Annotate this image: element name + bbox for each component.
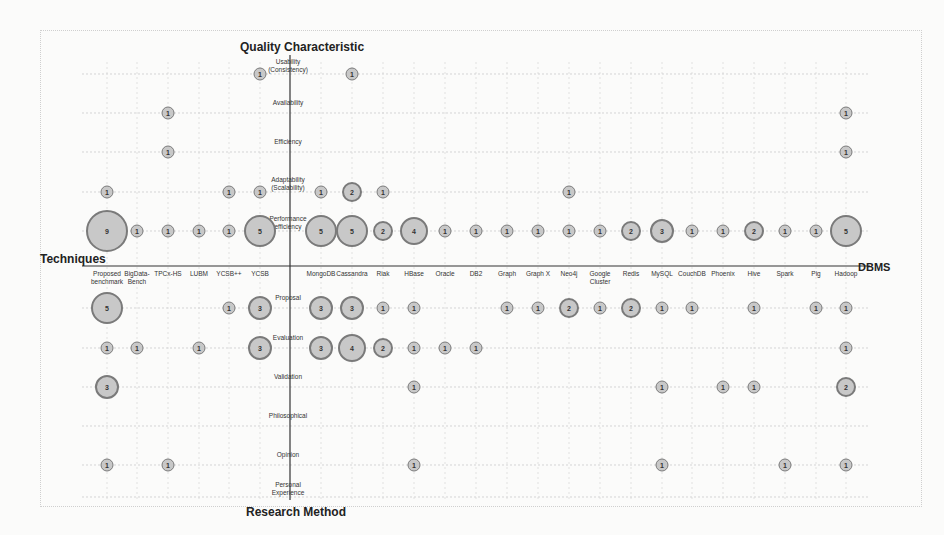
left-axis-title: Techniques	[40, 252, 106, 266]
data-bubble: 2	[836, 377, 856, 397]
data-bubble: 1	[223, 186, 236, 199]
data-bubble: 1	[131, 225, 144, 238]
row-label: Efficiency	[274, 138, 302, 146]
data-bubble: 2	[621, 221, 641, 241]
data-bubble: 1	[501, 225, 514, 238]
data-bubble: 3	[309, 296, 333, 320]
data-bubble: 1	[840, 342, 853, 355]
data-bubble: 2	[373, 338, 393, 358]
data-bubble: 2	[744, 221, 764, 241]
data-bubble: 1	[101, 459, 114, 472]
data-bubble: 1	[131, 342, 144, 355]
data-bubble: 1	[223, 225, 236, 238]
data-bubble: 1	[377, 302, 390, 315]
data-bubble: 1	[439, 225, 452, 238]
data-bubble: 1	[656, 302, 669, 315]
data-bubble: 3	[248, 296, 272, 320]
data-bubble: 5	[336, 215, 368, 247]
data-bubble: 1	[101, 186, 114, 199]
data-bubble: 1	[470, 342, 483, 355]
data-bubble: 1	[346, 68, 359, 81]
data-bubble: 1	[563, 225, 576, 238]
bottom-axis-title: Research Method	[246, 505, 346, 519]
data-bubble: 1	[408, 459, 421, 472]
data-bubble: 1	[717, 381, 730, 394]
data-bubble: 2	[621, 298, 641, 318]
row-label: Philosophical	[269, 412, 307, 420]
data-bubble: 1	[810, 225, 823, 238]
row-label: Evaluation	[273, 334, 303, 342]
top-axis-title: Quality Characteristic	[240, 40, 364, 54]
data-bubble: 4	[338, 334, 366, 362]
data-bubble: 9	[86, 210, 128, 252]
column-label: YCSB	[240, 270, 280, 278]
data-bubble: 1	[408, 342, 421, 355]
data-bubble: 1	[840, 459, 853, 472]
data-bubble: 1	[532, 225, 545, 238]
data-bubble: 5	[305, 215, 337, 247]
data-bubble: 1	[101, 342, 114, 355]
data-bubble: 5	[91, 292, 123, 324]
data-bubble: 1	[408, 302, 421, 315]
data-bubble: 4	[400, 217, 428, 245]
row-label: Usability (Consistency)	[268, 58, 308, 74]
data-bubble: 3	[248, 336, 272, 360]
data-bubble: 1	[594, 302, 607, 315]
row-label: Opinion	[277, 451, 299, 459]
data-bubble: 1	[779, 459, 792, 472]
data-bubble: 1	[470, 225, 483, 238]
data-bubble: 2	[559, 298, 579, 318]
data-bubble: 3	[650, 219, 674, 243]
data-bubble: 1	[193, 225, 206, 238]
data-bubble: 1	[162, 146, 175, 159]
row-label: Validation	[274, 373, 302, 381]
data-bubble: 1	[840, 146, 853, 159]
column-label: Hadoop	[826, 270, 866, 278]
data-bubble: 1	[717, 225, 730, 238]
data-bubble: 1	[408, 381, 421, 394]
data-bubble: 1	[840, 302, 853, 315]
data-bubble: 1	[748, 302, 761, 315]
bubble-chart: Quality Characteristic Research Method T…	[0, 0, 944, 535]
data-bubble: 1	[840, 107, 853, 120]
data-bubble: 2	[373, 221, 393, 241]
data-bubble: 1	[377, 186, 390, 199]
data-bubble: 1	[254, 68, 267, 81]
data-bubble: 1	[810, 302, 823, 315]
data-bubble: 1	[594, 225, 607, 238]
data-bubble: 3	[309, 336, 333, 360]
row-label: Availability	[273, 99, 304, 107]
data-bubble: 3	[340, 296, 364, 320]
data-bubble: 1	[563, 186, 576, 199]
data-bubble: 1	[686, 302, 699, 315]
row-label: Personal Experience	[272, 481, 305, 497]
data-bubble: 1	[656, 381, 669, 394]
data-bubble: 1	[439, 342, 452, 355]
data-bubble: 2	[342, 182, 362, 202]
data-bubble: 1	[254, 186, 267, 199]
data-bubble: 1	[532, 302, 545, 315]
data-bubble: 1	[686, 225, 699, 238]
data-bubble: 5	[244, 215, 276, 247]
data-bubble: 1	[779, 225, 792, 238]
data-bubble: 1	[162, 459, 175, 472]
row-label: Adaptability (Scalability)	[271, 176, 305, 192]
data-bubble: 1	[193, 342, 206, 355]
data-bubble: 1	[315, 186, 328, 199]
data-bubble: 1	[162, 225, 175, 238]
data-bubble: 5	[830, 215, 862, 247]
data-bubble: 1	[656, 459, 669, 472]
data-bubble: 1	[748, 381, 761, 394]
row-label: Proposal	[275, 294, 301, 302]
data-bubble: 1	[223, 302, 236, 315]
data-bubble: 1	[162, 107, 175, 120]
chart-grid	[0, 0, 944, 535]
data-bubble: 1	[501, 302, 514, 315]
data-bubble: 3	[95, 375, 119, 399]
